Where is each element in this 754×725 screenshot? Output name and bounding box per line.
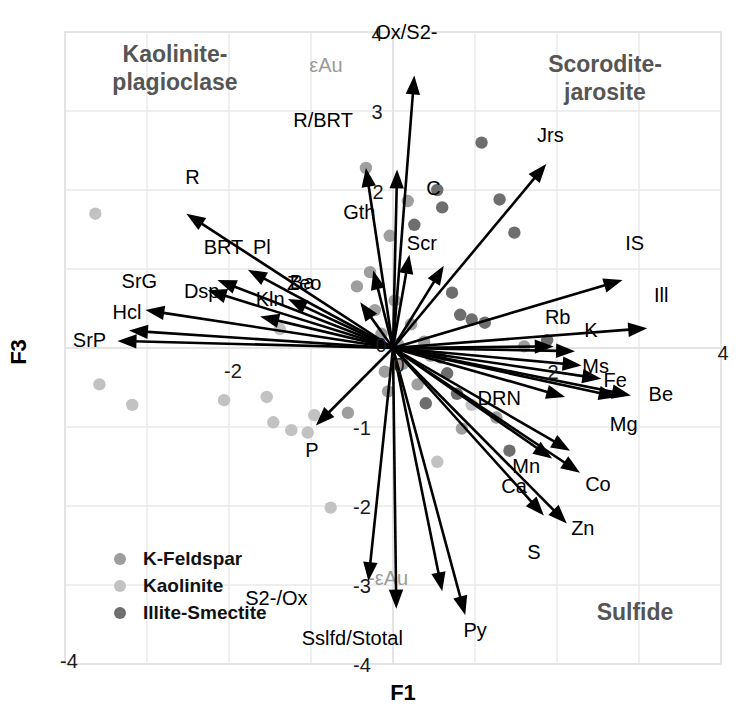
vector-arrowhead — [628, 323, 648, 337]
legend-label-1: Kaolinite — [143, 575, 223, 596]
vector-arrowhead — [602, 279, 622, 293]
scatter-point — [351, 280, 363, 292]
scatter-point — [93, 378, 105, 390]
vector-label-Zn: Zn — [571, 517, 594, 539]
vector-arrowhead — [248, 270, 268, 285]
y-axis-title: F3 — [6, 339, 31, 365]
vector-arrowhead — [556, 344, 575, 358]
vector-label-SrP: SrP — [73, 329, 106, 351]
vector-label-Be: Be — [649, 383, 673, 405]
vector-arrowhead — [260, 314, 280, 328]
vector-label-SslfdStotal: Sslfd/Stotal — [302, 627, 403, 649]
quadrant-title-1-line2: jarosite — [563, 79, 646, 105]
x-tick-label-4: 4 — [717, 342, 728, 364]
vector-label-Ill: Ill — [654, 284, 668, 306]
y-tick-label-2: 2 — [372, 181, 383, 203]
scatter-point — [126, 399, 138, 411]
vector-arrowhead — [406, 75, 420, 95]
vector-arrowhead — [118, 334, 137, 348]
vector-arrowhead — [431, 571, 445, 591]
vector-label-P: P — [305, 439, 318, 461]
vector-arrowhead — [390, 170, 404, 189]
vector-label-Kln: Kln — [256, 288, 285, 310]
quadrant-title-0: Kaolinite- — [123, 41, 228, 67]
quadrant-title-2: Sulfide — [597, 599, 674, 625]
vector-label-BRT: BRT — [204, 236, 244, 258]
y-tick-label--2: -2 — [353, 496, 371, 518]
scatter-point — [446, 287, 458, 299]
scatter-point — [285, 424, 297, 436]
vector-line — [370, 348, 393, 566]
vector-arrowhead — [562, 357, 582, 371]
y-tick-label--3: -3 — [353, 575, 371, 597]
vector-label-DRN: DRN — [478, 387, 521, 409]
vector-arrowhead — [550, 435, 570, 451]
vector-label-Rb: Rb — [545, 306, 571, 328]
x-tick-label--2: -2 — [224, 360, 242, 382]
scatter-point — [261, 391, 273, 403]
vector-label-Mg: Mg — [610, 413, 638, 435]
vector-arrowhead — [560, 456, 580, 473]
vector-label-OxS2: Ox/S2- — [375, 21, 437, 43]
scatter-point — [436, 201, 448, 213]
vector-label-Scr: Scr — [407, 232, 437, 254]
vector-label-Py: Py — [463, 619, 486, 641]
scatter-point — [324, 501, 336, 513]
x-tick-label-2: 2 — [547, 361, 558, 383]
scatter-point — [302, 426, 314, 438]
vector-label-Au: εAu — [309, 54, 342, 76]
y-tick-label-0: 0 — [375, 334, 386, 356]
y-tick-label--4: -4 — [353, 654, 371, 676]
vector-label-RBRT: R/BRT — [293, 109, 353, 131]
scatter-point — [218, 394, 230, 406]
vector-arrowhead — [145, 306, 165, 320]
vector-line — [393, 175, 537, 348]
vector-arrowhead — [545, 385, 565, 399]
vector-arrowhead — [453, 595, 467, 615]
legend-marker-0 — [114, 553, 126, 565]
vector-arrowhead — [389, 590, 403, 609]
vector-line — [368, 183, 393, 348]
vector-label-Jrs: Jrs — [537, 124, 564, 146]
vector-label-Hcl: Hcl — [113, 301, 142, 323]
scatter-point — [454, 309, 466, 321]
x-tick-label--4: -4 — [60, 650, 78, 672]
vector-arrowhead — [186, 214, 206, 230]
biplot-figure: Ox/S2-JrsScrCISIllR/BRTGthZeoBaRPlBRTDsp… — [0, 0, 754, 725]
scatter-point — [431, 456, 443, 468]
scatter-point — [267, 416, 279, 428]
vector-label-Dsp: Dsp — [184, 280, 220, 302]
scatter-point — [493, 193, 505, 205]
vector-label-SrG: SrG — [122, 270, 158, 292]
vector-line — [327, 348, 393, 415]
vector-label-K: K — [584, 319, 598, 341]
vector-label-C: C — [426, 177, 440, 199]
vector-label-Pl: Pl — [253, 236, 271, 258]
legend-marker-2 — [114, 607, 126, 619]
vector-label-R: R — [185, 166, 199, 188]
legend-marker-1 — [114, 580, 126, 592]
vector-label-Co: Co — [585, 473, 611, 495]
x-axis-title: F1 — [390, 680, 416, 705]
y-tick-label-3: 3 — [371, 101, 382, 123]
scatter-point — [384, 230, 396, 242]
y-tick-label-4: 4 — [371, 23, 382, 45]
scatter-point — [89, 208, 101, 220]
scatter-point — [408, 219, 420, 231]
legend-label-2: Illite-Smectite — [143, 602, 267, 623]
y-tick-label--1: -1 — [353, 417, 371, 439]
origin-label-lower: 0 — [393, 354, 404, 376]
quadrant-title-0-line2: plagioclase — [112, 69, 237, 95]
quadrant-title-1: Scorodite- — [548, 51, 662, 77]
vector-label-Au: -εAu — [368, 567, 408, 589]
scatter-point — [475, 136, 487, 148]
legend-label-0: K-Feldspar — [143, 548, 243, 569]
scatter-point — [420, 397, 432, 409]
vector-label-IS: IS — [625, 232, 644, 254]
vector-label-S: S — [527, 541, 540, 563]
biplot-svg: Ox/S2-JrsScrCISIllR/BRTGthZeoBaRPlBRTDsp… — [0, 0, 754, 725]
scatter-point — [508, 226, 520, 238]
